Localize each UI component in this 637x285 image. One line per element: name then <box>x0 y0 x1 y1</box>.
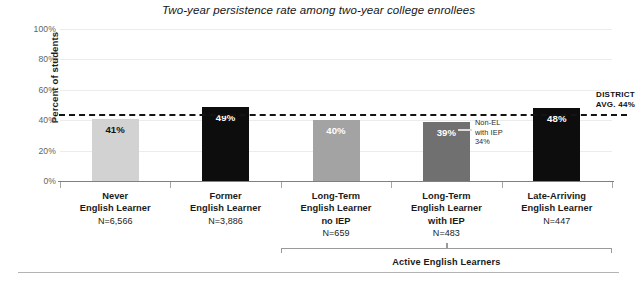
district-average-line <box>59 114 627 116</box>
chart-title: Two-year persistence rate among two-year… <box>0 4 637 16</box>
category-label-line1: Former <box>170 190 280 202</box>
bar[interactable]: 49% <box>202 107 249 181</box>
category-label-line1: Long-Term <box>281 190 391 202</box>
x-axis-tick <box>391 182 392 188</box>
bar-value-label: 40% <box>313 125 360 136</box>
district-average-label-line2: AVG. 44% <box>596 100 635 109</box>
x-axis-tick <box>60 182 61 188</box>
category-sample-size: N=6,566 <box>60 216 170 228</box>
y-tick-label: 20% <box>10 146 56 156</box>
x-axis-tick <box>502 182 503 188</box>
district-average-label: DISTRICTAVG. 44% <box>596 90 635 109</box>
bracket-center-stub <box>446 243 447 249</box>
category-label-line2: English Learner <box>281 202 391 214</box>
x-axis-tick <box>170 182 171 188</box>
bar[interactable]: 40% <box>313 120 360 181</box>
category-label-line1: Never <box>60 190 170 202</box>
bottom-divider <box>18 272 619 273</box>
gridline <box>60 29 612 30</box>
category-label-line2: English Learner <box>170 202 280 214</box>
gridline <box>60 59 612 60</box>
chart-figure: Two-year persistence rate among two-year… <box>0 0 637 285</box>
x-axis-category-label: FormerEnglish LearnerN=3,886 <box>170 190 280 227</box>
x-axis-tick <box>612 182 613 188</box>
bar-value-label: 41% <box>92 124 139 135</box>
gridline <box>60 90 612 91</box>
y-tick-label: 80% <box>10 54 56 64</box>
category-label-line2: English Learner <box>502 202 612 214</box>
y-tick-label: 0% <box>10 176 56 186</box>
category-sample-size: N=483 <box>391 228 501 240</box>
x-axis-tick <box>281 182 282 188</box>
x-axis-category-label: Long-TermEnglish Learnerwith IEPN=483 <box>391 190 501 240</box>
category-label-line2: English Learner <box>60 202 170 214</box>
x-axis-line <box>58 181 614 182</box>
plot-area: 41%49%40%39%48%Non-EL with IEP 34% <box>60 29 612 181</box>
annotation-non-el-with-iep: Non-EL with IEP 34% <box>475 118 503 146</box>
category-label-line1: Long-Term <box>391 190 501 202</box>
district-average-label-line1: DISTRICT <box>596 90 635 99</box>
y-tick-label: 40% <box>10 115 56 125</box>
category-sample-size: N=3,886 <box>170 216 280 228</box>
bracket-label: Active English Learners <box>281 257 612 267</box>
bar[interactable]: 48% <box>533 108 580 181</box>
category-label-line1: Late-Arriving <box>502 190 612 202</box>
x-axis-category-label: Late-ArrivingEnglish LearnerN=447 <box>502 190 612 227</box>
x-axis-category-label: NeverEnglish LearnerN=6,566 <box>60 190 170 227</box>
annotation-tick <box>458 129 472 130</box>
y-tick-label: 100% <box>10 24 56 34</box>
category-sample-size: N=659 <box>281 228 391 240</box>
category-label-line3: with IEP <box>391 215 501 227</box>
bar[interactable]: 41% <box>92 119 139 181</box>
y-axis-ticks: 0%20%40%60%80%100% <box>8 29 56 181</box>
category-label-line3: no IEP <box>281 215 391 227</box>
y-tick-label: 60% <box>10 85 56 95</box>
x-axis-category-label: Long-TermEnglish Learnerno IEPN=659 <box>281 190 391 240</box>
category-sample-size: N=447 <box>502 216 612 228</box>
category-label-line2: English Learner <box>391 202 501 214</box>
